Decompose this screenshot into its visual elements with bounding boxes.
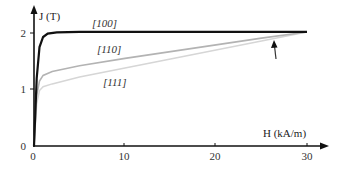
y-tick-label-1: 1 bbox=[21, 83, 27, 95]
x-tick-label-30: 30 bbox=[302, 150, 314, 162]
x-tick-label-0: 0 bbox=[30, 150, 36, 162]
series-label-110: [110] bbox=[97, 43, 121, 55]
y-tick-label-2: 2 bbox=[21, 27, 27, 39]
y-axis-arrow-icon bbox=[31, 5, 38, 14]
y-tick-label-0: 0 bbox=[21, 140, 27, 152]
series-label-111: [111] bbox=[103, 76, 126, 88]
magnetization-chart: 2 1 0 0 10 20 30 J (T) H (kA/m) [100] [1… bbox=[0, 0, 347, 170]
x-tick-label-10: 10 bbox=[119, 150, 131, 162]
x-axis-label: H (kA/m) bbox=[263, 127, 306, 140]
x-axis-arrow-icon bbox=[320, 143, 329, 150]
y-axis-label: J (T) bbox=[39, 10, 60, 23]
annotation-arrow-icon bbox=[271, 40, 278, 59]
series-label-100: [100] bbox=[92, 17, 117, 29]
x-tick-label-20: 20 bbox=[210, 150, 222, 162]
